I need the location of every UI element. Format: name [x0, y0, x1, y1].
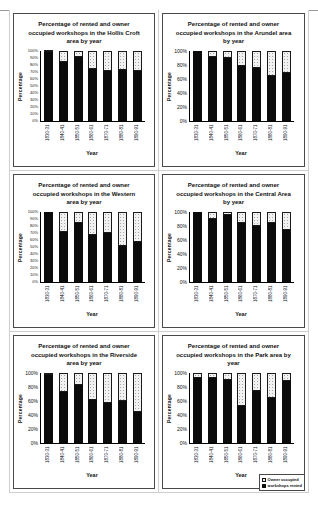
x-tick-label: 1870-71	[102, 446, 111, 471]
stacked-bar	[133, 373, 142, 443]
plot-column: 1830-311840-411850-511860-611870-711880-…	[189, 51, 294, 156]
bar-segment-workshops-rented	[208, 219, 217, 282]
y-tick-label: 40%	[30, 252, 38, 256]
stacked-bar	[133, 212, 142, 282]
bar-segment-owner-occupied	[103, 373, 112, 403]
stacked-bar	[223, 212, 232, 282]
stacked-bar	[88, 373, 97, 443]
y-tick-label: 80%	[28, 385, 38, 390]
x-tick-label: 1890-91	[281, 446, 290, 471]
bar-segment-workshops-rented	[223, 215, 232, 282]
chart-title: Percentage of rented and owner occupied …	[163, 336, 304, 370]
bar-segment-workshops-rented	[193, 378, 202, 443]
stacked-bar	[267, 373, 276, 443]
y-tick-label: 90%	[30, 217, 38, 221]
y-axis: 0%20%40%60%80%100%	[172, 212, 189, 282]
owner-occupied-swatch-icon	[262, 478, 266, 482]
bar-segment-owner-occupied	[282, 51, 291, 73]
bar-segment-owner-occupied	[133, 212, 142, 242]
stacked-bar	[193, 373, 202, 443]
bar-segment-workshops-rented	[88, 400, 97, 443]
bar-segment-workshops-rented	[282, 381, 291, 443]
bar-segment-owner-occupied	[237, 212, 246, 223]
bar-segment-workshops-rented	[103, 71, 112, 121]
chart-park: Percentage of rented and owner occupied …	[162, 335, 305, 489]
x-tick-label: 1870-71	[251, 285, 260, 310]
chart-riverside: Percentage of rented and owner occupied …	[13, 335, 155, 489]
chart-body: Percentage 0%10%20%30%40%50%60%70%80%90%…	[14, 212, 154, 317]
bar-segment-workshops-rented	[223, 58, 232, 121]
chart-hollis-croft: Percentage of rented and owner occupied …	[13, 13, 155, 167]
legend: Owner occupied workshops rented	[259, 474, 305, 491]
bar-segment-owner-occupied	[103, 51, 112, 71]
chart-panel-central: Percentage of rented and owner occupied …	[159, 171, 309, 332]
stacked-bar	[237, 373, 246, 443]
chart-panel-hollis-croft: Percentage of rented and owner occupied …	[9, 10, 159, 171]
stacked-bar	[193, 212, 202, 282]
chart-central: Percentage of rented and owner occupied …	[162, 174, 305, 328]
y-tick-label: 80%	[177, 385, 187, 390]
stacked-bar	[237, 51, 246, 121]
chart-body: Percentage 0%20%40%60%80%100% 1830-31184…	[163, 212, 304, 317]
bar-segment-workshops-rented	[133, 71, 142, 121]
y-tick-label: 80%	[177, 224, 187, 229]
x-tick-label: 1850-51	[222, 124, 231, 149]
y-tick-label: 20%	[30, 266, 38, 270]
bar-segment-workshops-rented	[237, 223, 246, 283]
x-tick-label: 1880-81	[117, 285, 126, 310]
bar-segment-owner-occupied	[118, 373, 127, 401]
bar-segment-workshops-rented	[44, 52, 53, 121]
bar-segment-owner-occupied	[59, 373, 68, 392]
x-axis-labels: 1830-311840-411850-511860-611870-711880-…	[40, 124, 144, 149]
stacked-bar	[44, 212, 53, 282]
stacked-bar	[88, 51, 97, 121]
bar-segment-owner-occupied	[103, 212, 112, 233]
bar-segment-workshops-rented	[44, 212, 53, 282]
bar-segment-workshops-rented	[208, 57, 217, 121]
bar-segment-workshops-rented	[252, 68, 261, 121]
y-tick-label: 40%	[177, 252, 187, 257]
stacked-bar	[267, 51, 276, 121]
bar-segment-owner-occupied	[237, 51, 246, 66]
stacked-bar	[103, 212, 112, 282]
chart-body: Percentage 0%20%40%60%80%100% 1830-31184…	[163, 373, 304, 478]
x-tick-label: 1850-51	[222, 446, 231, 471]
bar-segment-workshops-rented	[282, 73, 291, 121]
legend-item-workshops-rented: workshops rented	[262, 483, 302, 488]
stacked-bar	[74, 212, 83, 282]
y-tick-label: 20%	[177, 105, 187, 110]
x-tick-label: 1830-31	[43, 124, 52, 149]
y-tick-label: 20%	[30, 105, 38, 109]
chart-arundel: Percentage of rented and owner occupied …	[162, 13, 305, 167]
y-tick-label: 20%	[177, 427, 187, 432]
bar-segment-owner-occupied	[88, 373, 97, 400]
legend-item-owner-occupied: Owner occupied	[262, 477, 302, 482]
plot-area	[40, 51, 145, 122]
x-tick-label: 1860-61	[236, 446, 245, 471]
bar-segment-workshops-rented	[208, 378, 217, 443]
stacked-bar	[88, 212, 97, 282]
bar-segment-owner-occupied	[252, 212, 261, 226]
bar-segment-workshops-rented	[74, 223, 83, 283]
bar-segment-workshops-rented	[237, 66, 246, 121]
bar-segment-workshops-rented	[118, 401, 127, 443]
y-tick-label: 60%	[177, 77, 187, 82]
y-axis: 0%20%40%60%80%100%	[172, 373, 189, 443]
bar-segment-workshops-rented	[267, 223, 276, 282]
plot-column: 1830-311840-411850-511860-611870-711880-…	[40, 51, 145, 156]
chart-grid: Percentage of rented and owner occupied …	[9, 10, 309, 493]
y-axis: 0%10%20%30%40%50%60%70%80%90%100%	[23, 51, 40, 121]
y-tick-label: 20%	[28, 427, 38, 432]
y-tick-label: 100%	[25, 371, 38, 376]
x-axis-title: Year	[40, 150, 144, 156]
bar-segment-owner-occupied	[133, 373, 142, 412]
x-tick-label: 1880-81	[117, 124, 126, 149]
y-tick-label: 40%	[177, 413, 187, 418]
x-tick-label: 1830-31	[192, 446, 201, 471]
bar-segment-owner-occupied	[237, 373, 246, 406]
x-tick-label: 1830-31	[43, 446, 52, 471]
y-tick-label: 30%	[30, 98, 38, 102]
stacked-bar	[118, 212, 127, 282]
y-tick-label: 60%	[30, 77, 38, 81]
y-tick-label: 70%	[30, 231, 38, 235]
